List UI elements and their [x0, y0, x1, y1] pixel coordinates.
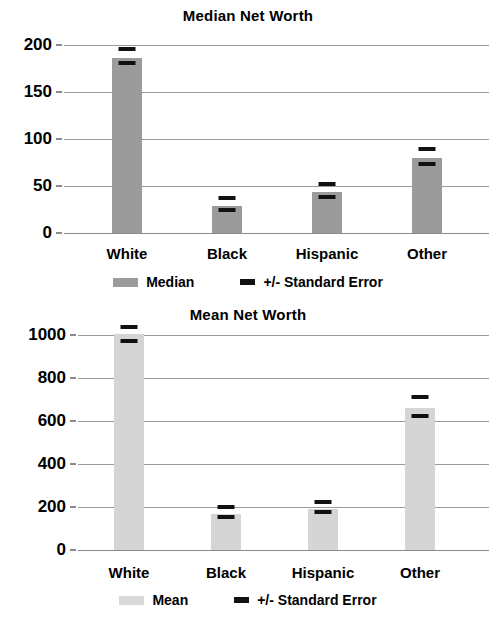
error-bar-cap-upper-black: [218, 505, 235, 509]
y-tickmark: [56, 44, 62, 46]
y-axis-mean: 1000 800 600 400 200 0: [0, 327, 66, 555]
legend-swatch-median-icon: [113, 278, 138, 287]
y-tickmark: [56, 91, 62, 93]
y-tick-label: 400: [38, 454, 66, 474]
plot-area-median: 200 150 100 50 0: [0, 36, 496, 236]
x-label-white: White: [109, 564, 150, 581]
plot-canvas-mean: [78, 335, 489, 550]
bar-other[interactable]: [405, 408, 435, 550]
y-axis-median: 200 150 100 50 0: [0, 36, 52, 236]
error-bar-cap-lower-black: [218, 515, 235, 519]
legend-median: Median +/- Standard Error: [0, 274, 496, 290]
y-tickmark: [70, 549, 76, 551]
bar-other[interactable]: [412, 158, 442, 233]
y-tickmark: [70, 506, 76, 508]
x-label-other: Other: [407, 245, 447, 262]
y-tickmark: [70, 463, 76, 465]
error-bar-cap-lower-hispanic: [315, 510, 332, 514]
y-tick-label: 800: [38, 368, 66, 388]
y-tickmark: [56, 138, 62, 140]
y-tick-label: 200: [38, 497, 66, 517]
y-tick-label: 0: [43, 223, 52, 243]
bar-black[interactable]: [211, 514, 241, 550]
legend-label-median: Median: [146, 274, 194, 290]
error-bar-cap-upper-other: [412, 395, 429, 399]
error-bar-cap-upper-other: [419, 147, 436, 151]
error-bar-cap-lower-white: [121, 339, 138, 343]
y-tickmark: [56, 232, 62, 234]
x-label-other: Other: [400, 564, 440, 581]
error-bar-cap-lower-other: [419, 162, 436, 166]
legend-label-mean: Mean: [152, 592, 188, 608]
bar-group-black: [212, 45, 242, 233]
bar-group-white: [114, 335, 144, 550]
legend-swatch-mean-icon: [119, 596, 144, 605]
chart-mean-net-worth: Mean Net Worth 1000 800 600 400 200 0: [0, 300, 496, 627]
legend-swatch-error-icon: [234, 597, 249, 603]
bar-white[interactable]: [114, 334, 144, 550]
y-tickmarks-median: [56, 36, 64, 236]
x-label-hispanic: Hispanic: [292, 564, 355, 581]
plot-canvas-median: [64, 45, 489, 233]
bar-group-hispanic: [312, 45, 342, 233]
y-tick-label: 1000: [28, 325, 66, 345]
legend-swatch-error-icon: [240, 279, 255, 285]
y-tick-label: 600: [38, 411, 66, 431]
legend-entry-standard-error[interactable]: +/- Standard Error: [240, 274, 382, 290]
legend-entry-standard-error[interactable]: +/- Standard Error: [234, 592, 376, 608]
x-label-white: White: [107, 245, 148, 262]
x-label-black: Black: [206, 564, 246, 581]
gridline-0-baseline: [78, 550, 489, 551]
chart-title-median: Median Net Worth: [0, 8, 496, 23]
legend-entry-median[interactable]: Median: [113, 274, 194, 290]
bar-group-white: [112, 45, 142, 233]
y-tick-label: 150: [24, 82, 52, 102]
legend-mean: Mean +/- Standard Error: [0, 592, 496, 608]
error-bar-cap-lower-white: [119, 61, 136, 65]
bar-group-hispanic: [308, 335, 338, 550]
y-tick-label: 50: [33, 176, 52, 196]
error-bar-cap-upper-black: [219, 196, 236, 200]
y-tickmark: [70, 334, 76, 336]
plot-area-mean: 1000 800 600 400 200 0: [0, 327, 496, 555]
error-bar-cap-lower-other: [412, 414, 429, 418]
error-bar-cap-lower-black: [219, 208, 236, 212]
y-tick-label: 100: [24, 129, 52, 149]
x-label-black: Black: [207, 245, 247, 262]
y-tick-label: 200: [24, 35, 52, 55]
bars-layer-mean: [78, 335, 489, 550]
bar-group-other: [405, 335, 435, 550]
y-tickmarks-mean: [70, 327, 78, 555]
legend-label-standard-error: +/- Standard Error: [263, 274, 382, 290]
bar-hispanic[interactable]: [308, 509, 338, 550]
error-bar-cap-upper-white: [119, 47, 136, 51]
error-bar-cap-upper-hispanic: [315, 500, 332, 504]
y-tick-label: 0: [57, 540, 66, 560]
bar-group-other: [412, 45, 442, 233]
gridline-0-baseline: [64, 233, 489, 234]
chart-title-mean: Mean Net Worth: [0, 307, 496, 322]
y-tickmark: [70, 420, 76, 422]
bars-layer-median: [64, 45, 489, 233]
bar-white[interactable]: [112, 58, 142, 233]
error-bar-cap-lower-hispanic: [319, 195, 336, 199]
error-bar-cap-upper-hispanic: [319, 182, 336, 186]
bar-group-black: [211, 335, 241, 550]
error-bar-cap-upper-white: [121, 325, 138, 329]
legend-entry-mean[interactable]: Mean: [119, 592, 188, 608]
chart-median-net-worth: Median Net Worth 200 150 100 50 0: [0, 0, 496, 300]
y-tickmark: [56, 185, 62, 187]
x-label-hispanic: Hispanic: [296, 245, 359, 262]
y-tickmark: [70, 377, 76, 379]
legend-label-standard-error: +/- Standard Error: [257, 592, 376, 608]
